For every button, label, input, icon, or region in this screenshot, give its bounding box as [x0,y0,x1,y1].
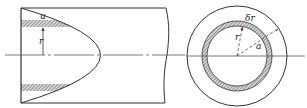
cross-radius-label: r [235,32,240,42]
pipe-radius-label: a [256,41,261,51]
arrow-head-icon [42,27,45,31]
delta-r-label: δr [245,13,255,23]
poiseuille-flow-diagram: r u r δr a [0,0,307,108]
upper-shell-band [21,20,171,27]
lower-shell-band [21,84,171,91]
longitudinal-section: r u [5,8,185,103]
shell-label: u [40,11,46,21]
cross-section: r δr a [186,6,305,106]
break-line [164,8,169,103]
radius-label: r [39,36,44,46]
arrow-head-icon [241,27,244,31]
arrow-head-icon [276,28,279,32]
